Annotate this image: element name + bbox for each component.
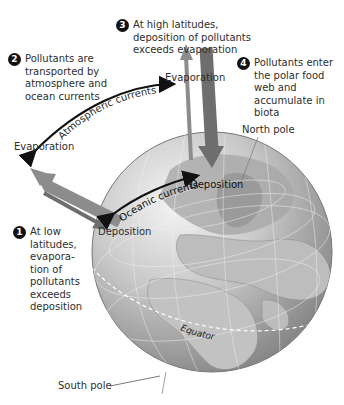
step-1-badge: 1	[13, 226, 26, 239]
deposition-label-high: Deposition	[190, 179, 243, 192]
evaporation-label-low: Evaporation	[14, 141, 74, 154]
step-2-text: Pollutants are transported by atmosphere…	[8, 53, 128, 103]
north-pole-label: North pole	[242, 124, 295, 137]
step-3-badge: 3	[116, 19, 129, 32]
step-2-badge: 2	[8, 53, 21, 66]
step-3-text: At high latitudes, deposition of polluta…	[116, 19, 276, 57]
step-4-text: Pollutants enter the polar food web and …	[237, 57, 342, 120]
south-pole-axis	[162, 372, 166, 394]
step-2: 2 Pollutants are transported by atmosphe…	[8, 53, 128, 103]
deposition-arrow-high	[206, 48, 212, 150]
step-1-text: At low latitudes, evapora- tion of pollu…	[13, 226, 93, 314]
step-4-badge: 4	[237, 57, 250, 70]
globe	[80, 132, 340, 400]
step-1: 1 At low latitudes, evapora- tion of pol…	[13, 226, 93, 314]
step-3: 3 At high latitudes, deposition of pollu…	[116, 19, 276, 57]
pollutant-transport-diagram: Atmospheric currents Oceanic currents Eq…	[0, 0, 344, 405]
evaporation-label-high: Evaporation	[165, 72, 225, 85]
deposition-label-low: Deposition	[98, 226, 151, 239]
south-pole-label: South pole	[58, 380, 112, 393]
south-pole-leader	[110, 376, 160, 386]
step-4: 4 Pollutants enter the polar food web an…	[237, 57, 342, 120]
